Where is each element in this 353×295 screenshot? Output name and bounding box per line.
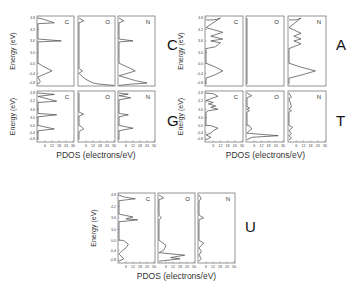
y-tick-label: 3.0 (198, 116, 203, 120)
element-label: O (105, 94, 110, 100)
y-tick-label: 4.2 (198, 28, 203, 32)
pdos-panel-C-C: C (37, 16, 74, 86)
y-tick-label: -0.4 (29, 72, 35, 76)
y-tick-label: 3.0 (111, 228, 116, 232)
x-tick-label: 18 (309, 144, 313, 148)
y-tick-label: -0.8 (29, 137, 35, 141)
y-axis-label: Energy (eV) (177, 98, 185, 135)
x-tick-label: 24 (274, 144, 278, 148)
x-tick-label: 30 (281, 144, 285, 148)
x-tick-label: 6 (44, 144, 46, 148)
group-label: T (336, 112, 345, 129)
pdos-group-T: TEnergy (eV)4.84.23.63.00.0-0.4-0.8C6121… (177, 91, 345, 160)
element-label: N (226, 196, 230, 202)
y-tick-label: 0.0 (198, 124, 203, 128)
x-axis-label: PDOS (electrons/eV) (226, 150, 306, 160)
x-tick-label: 12 (131, 144, 135, 148)
y-tick-label: -0.4 (29, 131, 35, 135)
pdos-panel-U-C: C612182430 (118, 193, 156, 269)
x-tick-label: 24 (105, 144, 109, 148)
x-tick-label: 12 (91, 144, 95, 148)
group-label: U (245, 218, 256, 235)
element-label: O (274, 94, 279, 100)
x-tick-label: 30 (232, 265, 236, 269)
pdos-curve (38, 93, 57, 140)
x-tick-label: 24 (185, 265, 189, 269)
pdos-group-A: AEnergy (eV)4.84.23.63.00.0-0.4-0.8CON (177, 16, 346, 86)
pdos-panel-U-O: O612182430 (158, 193, 196, 269)
y-tick-label: -0.4 (197, 72, 203, 76)
y-tick-label: 4.2 (30, 28, 35, 32)
y-tick-label: -0.8 (197, 137, 203, 141)
y-tick-label: -0.4 (110, 249, 116, 253)
pdos-curve (119, 93, 133, 140)
x-tick-label: 18 (98, 144, 102, 148)
x-tick-label: 24 (64, 144, 68, 148)
pdos-curve (159, 195, 185, 261)
pdos-group-U: UEnergy (eV)4.84.23.63.00.0-0.4-0.8C6121… (90, 193, 256, 281)
element-label: N (146, 19, 150, 25)
pdos-curve (119, 18, 147, 85)
element-label: C (65, 19, 70, 25)
y-axis-label: Energy (eV) (177, 32, 185, 69)
x-tick-label: 30 (323, 144, 327, 148)
x-tick-label: 6 (125, 265, 127, 269)
x-tick-label: 6 (295, 144, 297, 148)
pdos-curve (119, 195, 138, 261)
y-tick-label: 4.8 (111, 193, 116, 197)
element-label: C (65, 94, 70, 100)
pdos-curve (79, 18, 114, 85)
x-tick-label: 24 (145, 144, 149, 148)
y-tick-label: 4.2 (198, 99, 203, 103)
pdos-panel-U-N: N612182430 (198, 193, 236, 269)
pdos-curve (199, 195, 204, 261)
x-tick-label: 12 (301, 144, 305, 148)
x-tick-label: 18 (226, 144, 230, 148)
pdos-panel-G-O: O612182430 (78, 91, 116, 148)
element-label: C (234, 19, 239, 25)
x-tick-label: 12 (218, 144, 222, 148)
pdos-panel-G-N: N612182430 (118, 91, 156, 148)
y-tick-label: 4.8 (30, 16, 35, 20)
y-tick-label: 3.6 (198, 108, 203, 112)
y-tick-label: -0.8 (110, 258, 116, 262)
x-tick-label: 24 (233, 144, 237, 148)
y-axis-label: Energy (eV) (9, 32, 17, 69)
pdos-curve (206, 93, 218, 140)
element-label: N (146, 94, 150, 100)
x-axis-label: PDOS (electrons/eV) (137, 271, 217, 281)
element-label: O (274, 19, 279, 25)
y-tick-label: 0.0 (30, 124, 35, 128)
y-tick-label: -0.8 (197, 81, 203, 85)
x-tick-label: 12 (50, 144, 54, 148)
y-tick-label: 0.0 (198, 62, 203, 66)
pdos-group-G: GEnergy (eV)4.84.23.63.00.0-0.4-0.8C6121… (9, 91, 179, 160)
pdos-panel-T-C: C612182430 (205, 91, 244, 148)
x-tick-label: 18 (138, 265, 142, 269)
x-tick-label: 18 (267, 144, 271, 148)
x-tick-label: 30 (192, 265, 196, 269)
x-tick-label: 30 (240, 144, 244, 148)
y-tick-label: -0.8 (29, 81, 35, 85)
x-tick-label: 30 (112, 144, 116, 148)
x-tick-label: 18 (138, 144, 142, 148)
y-tick-label: 0.0 (30, 62, 35, 66)
pdos-panel-A-N: N (288, 16, 326, 86)
element-label: O (185, 196, 190, 202)
x-tick-label: 24 (145, 265, 149, 269)
x-tick-label: 30 (152, 144, 156, 148)
pdos-curve (289, 18, 315, 84)
group-label: A (336, 36, 346, 53)
x-tick-label: 12 (259, 144, 263, 148)
element-label: N (317, 19, 321, 25)
pdos-curve (38, 18, 61, 84)
y-tick-label: 3.6 (30, 39, 35, 43)
x-tick-label: 12 (131, 265, 135, 269)
pdos-curve (289, 93, 293, 140)
y-tick-label: 4.8 (198, 91, 203, 95)
y-tick-label: 3.0 (198, 51, 203, 55)
x-tick-label: 24 (225, 265, 229, 269)
y-tick-label: 0.0 (111, 239, 116, 243)
x-tick-label: 18 (218, 265, 222, 269)
pdos-curve (247, 93, 278, 140)
